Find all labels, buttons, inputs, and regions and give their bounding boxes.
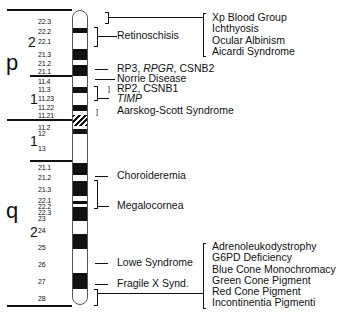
band-label: 25 <box>38 244 66 251</box>
top-boundary-line <box>7 9 72 11</box>
choroideremia-tick <box>95 176 108 177</box>
timp-connector <box>97 98 109 99</box>
bottom-small-bracket-cap <box>94 305 97 306</box>
region-label-p2: 2 <box>28 35 36 49</box>
disease-label: Ichthyosis <box>212 23 295 34</box>
fragile-x-tick <box>95 284 108 285</box>
retinoschisis-bracket <box>97 27 98 47</box>
band-p22-2 <box>73 28 87 33</box>
band-label: 21.2 <box>38 60 66 67</box>
band-q25 <box>73 234 87 249</box>
aarskog-small-bracket: ] <box>96 106 98 117</box>
band-label: 11.23 <box>38 95 66 102</box>
retinoschisis-connector <box>97 36 117 37</box>
region-label-q2: 2 <box>30 225 38 239</box>
band-q21-3 <box>73 181 87 196</box>
band-label: 21.1 <box>38 164 66 171</box>
timp-label: TIMP <box>117 93 142 104</box>
centromere <box>73 115 87 126</box>
band-label: 21.1 <box>38 68 66 75</box>
band-p11-22 <box>73 105 87 111</box>
band-label: 11.4 <box>38 78 66 85</box>
band-p21-1 <box>73 65 87 76</box>
band-label: 12 <box>38 130 66 137</box>
band-label: 28 <box>38 295 66 302</box>
band-label: 11.3 <box>38 86 66 93</box>
band-q22-2 <box>73 201 87 204</box>
q-region-divider <box>30 160 72 162</box>
region-label-p1: 1 <box>30 92 38 106</box>
band-q23 <box>73 207 87 221</box>
megalocornea-bracket-cap <box>94 208 97 209</box>
x-chromosome-ideogram <box>72 10 88 305</box>
band-label: 21.3 <box>38 186 66 193</box>
band-label: 26 <box>38 261 66 268</box>
bottom-group-bracket-cap <box>203 243 206 244</box>
retinoschisis-label: Retinoschisis <box>117 30 179 41</box>
timp-bracket-cap <box>94 86 97 87</box>
band-label: 22.2 <box>38 28 66 35</box>
arm-label-q: q <box>6 200 18 222</box>
top-small-bracket-cap <box>105 23 108 24</box>
band-label: 21.2 <box>38 174 66 181</box>
retinoschisis-bracket-cap <box>94 46 97 47</box>
region-label-q1: 1 <box>30 134 38 148</box>
top-group-connector <box>108 17 204 18</box>
top-group-bracket <box>203 13 204 57</box>
retinoschisis-bracket-cap <box>94 27 97 28</box>
band-label: 11.22 <box>38 104 66 111</box>
megalocornea-bracket-cap <box>94 180 97 181</box>
disease-label: Aicardi Syndrome <box>212 46 295 57</box>
fragile-x-label: Fragile X Synd. <box>117 278 189 289</box>
top-group-bracket-cap <box>203 13 206 14</box>
bottom-group-connector <box>97 293 204 294</box>
disease-label: G6PD Deficiency <box>212 252 336 263</box>
choroideremia-label: Choroideremia <box>117 170 186 181</box>
aarskog-label: Aarskog-Scott Syndrome <box>117 105 234 116</box>
band-q27 <box>73 273 87 289</box>
bottom-boundary-line <box>7 305 72 307</box>
band-p11-3 <box>73 87 87 93</box>
band-label: 22.3 <box>38 18 66 25</box>
bottom-group-bracket <box>203 243 204 309</box>
norrie-tick <box>95 79 115 80</box>
centromere-divider <box>7 119 72 121</box>
band-label: 21.3 <box>38 51 66 58</box>
band-label: 11.21 <box>38 112 66 119</box>
bottom-group-bracket-cap <box>203 308 206 309</box>
megalocornea-label: Megalocornea <box>117 200 184 211</box>
lowe-label: Lowe Syndrome <box>117 257 193 268</box>
megalocornea-bracket <box>97 180 98 209</box>
megalocornea-connector <box>97 206 109 207</box>
top-disease-group: Xp Blood Group Ichthyosis Ocular Albinis… <box>212 12 295 57</box>
rp2-small-bracket: ] <box>108 83 110 94</box>
band-q12 <box>73 129 87 134</box>
band-label: 13 <box>38 145 66 152</box>
bottom-small-bracket-cap <box>94 289 97 290</box>
bottom-disease-group: Adrenoleukodystrophy G6PD Deficiency Blu… <box>212 241 336 309</box>
top-small-bracket <box>108 12 109 24</box>
band-label: 24 <box>38 227 66 234</box>
top-small-bracket-cap <box>105 12 108 13</box>
band-label: 22.1 <box>38 38 66 45</box>
bottom-small-bracket <box>97 289 98 306</box>
band-label: 23 <box>38 215 66 222</box>
rp3-tick <box>95 69 108 70</box>
arm-label-p: p <box>6 52 18 74</box>
top-group-bracket-cap <box>203 56 206 57</box>
band-p21-3 <box>73 49 87 60</box>
lowe-tick <box>95 263 108 264</box>
p-region-divider <box>30 75 72 77</box>
timp-bracket-cap <box>94 100 97 101</box>
band-label: 27 <box>38 278 66 285</box>
disease-label: Incontinentia Pigmenti <box>212 297 336 308</box>
band-q21-1 <box>73 163 87 175</box>
